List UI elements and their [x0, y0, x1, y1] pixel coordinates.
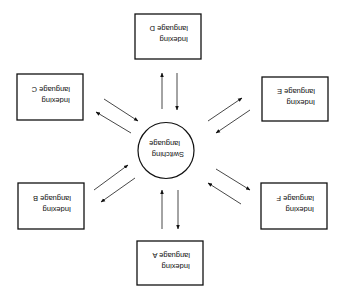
arrow-from-f	[208, 183, 241, 204]
arrow-to-f	[216, 169, 250, 190]
node-label-line2: language B	[33, 194, 71, 203]
node-label-line1: Indexing	[160, 35, 188, 44]
arrow-to-c	[96, 112, 131, 133]
node-label-line2: language F	[276, 194, 314, 203]
node-label-line2: language E	[277, 87, 315, 96]
arrow-from-e	[216, 110, 250, 133]
center-label-line2: language	[149, 139, 180, 148]
center-label-line1: Switching	[152, 150, 184, 159]
arrow-to-e	[208, 98, 242, 121]
switching-language-diagram: Indexing language D Indexing language C …	[0, 0, 339, 303]
node-indexing-language-b: Indexing language B	[18, 183, 84, 229]
node-label-line2: language D	[149, 24, 188, 33]
node-label-line1: Indexing	[286, 205, 314, 214]
node-label-line1: Indexing	[42, 96, 70, 105]
arrow-from-c	[104, 99, 138, 121]
node-label-line2: language C	[31, 85, 70, 94]
node-indexing-language-c: Indexing language C	[17, 74, 83, 120]
node-switching-language: Switching language	[138, 123, 194, 179]
node-indexing-language-e: Indexing language E	[262, 77, 328, 121]
node-label-line2: language A	[152, 251, 190, 260]
node-indexing-language-d: Indexing language D	[135, 14, 201, 59]
node-indexing-language-a: Indexing language A	[137, 241, 203, 285]
node-indexing-language-f: Indexing language F	[261, 183, 327, 229]
node-label-line1: Indexing	[43, 205, 71, 214]
node-label-line1: Indexing	[287, 98, 315, 107]
node-label-line1: Indexing	[162, 262, 190, 271]
